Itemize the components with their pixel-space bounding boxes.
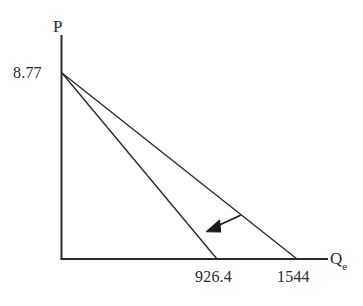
y-intercept-tick-label: 8.77	[13, 65, 42, 81]
x-axis-label: Qe	[330, 250, 347, 270]
outer-demand-line	[62, 73, 297, 259]
x-axis-label-subscript: e	[342, 260, 347, 272]
demand-shift-diagram: P Qe 8.77 926.4 1544	[0, 0, 363, 306]
shift-arrow-icon	[207, 216, 241, 232]
inner-demand-line	[62, 73, 217, 259]
plot-canvas	[0, 0, 363, 306]
x-axis-label-main: Q	[330, 249, 342, 268]
x-tick-label-inner: 926.4	[195, 269, 232, 285]
x-tick-label-outer: 1544	[277, 269, 310, 285]
y-axis-label: P	[53, 18, 62, 35]
